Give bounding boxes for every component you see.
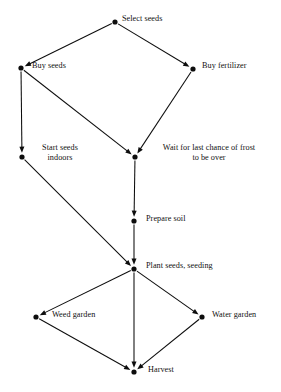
- node-label-wait-for-frost: Wait for last chance of frostto be over: [144, 143, 274, 162]
- edges-layer: [19, 24, 199, 370]
- edge-select-seeds__buy-fertilizer: [118, 24, 186, 65]
- node-dot-prepare-soil[interactable]: [131, 218, 136, 223]
- arrowhead-weed-garden__harvest: [124, 365, 131, 370]
- node-dot-select-seeds[interactable]: [112, 19, 117, 24]
- arrowhead-plant-seeds__harvest: [132, 362, 137, 368]
- node-label-line: Prepare soil: [146, 214, 185, 224]
- node-label-select-seeds: Select seeds: [122, 14, 162, 24]
- edge-weed-garden__harvest: [39, 319, 127, 369]
- arrowhead-prepare-soil__plant-seeds: [132, 259, 137, 265]
- node-label-line: Plant seeds, seeding: [146, 261, 213, 271]
- node-dot-buy-fertilizer[interactable]: [190, 66, 195, 71]
- node-label-buy-seeds: Buy seeds: [32, 61, 66, 71]
- node-label-line: to be over: [144, 153, 274, 163]
- node-label-plant-seeds-seeding: Plant seeds, seeding: [146, 261, 213, 271]
- node-label-harvest: Harvest: [148, 365, 174, 375]
- node-label-line: Select seeds: [122, 14, 162, 24]
- node-label-line: Wait for last chance of frost: [144, 143, 274, 153]
- arrowhead-select-seeds__buy-fertilizer: [183, 61, 190, 66]
- node-label-line: indoors: [29, 153, 91, 163]
- edge-buy-seeds__start-seeds-indoors: [21, 72, 22, 150]
- node-label-start-seeds-indoors: Start seedsindoors: [29, 143, 91, 162]
- node-dot-plant-seeds-seeding[interactable]: [131, 266, 136, 271]
- edge-plant-seeds__weed-garden: [43, 271, 131, 314]
- edge-water-garden__harvest: [140, 319, 199, 367]
- node-dot-start-seeds-indoors[interactable]: [19, 154, 24, 159]
- node-label-buy-fertilizer: Buy fertilizer: [202, 61, 247, 71]
- arrowhead-plant-seeds__water-garden: [192, 309, 199, 315]
- node-label-weed-garden: Weed garden: [52, 310, 95, 320]
- node-label-line: Water garden: [212, 310, 256, 320]
- node-dot-buy-seeds[interactable]: [18, 65, 23, 70]
- node-label-line: Buy fertilizer: [202, 61, 247, 71]
- node-label-line: Start seeds: [29, 143, 91, 153]
- edge-start-seeds-indoors__plant-seeds: [25, 160, 129, 264]
- edge-select-seeds__buy-seeds: [28, 24, 112, 65]
- node-dot-harvest[interactable]: [131, 369, 136, 374]
- node-label-line: Buy seeds: [32, 61, 66, 71]
- node-label-line: Weed garden: [52, 310, 95, 320]
- arrowhead-select-seeds__buy-seeds: [25, 61, 32, 66]
- arrowhead-buy-seeds__start-seeds-indoors: [19, 147, 24, 153]
- diagram-canvas: Select seedsBuy seedsBuy fertilizerStart…: [0, 0, 281, 392]
- node-dot-water-garden[interactable]: [199, 314, 204, 319]
- edge-wait-for-frost__prepare-soil: [134, 161, 135, 214]
- edge-plant-seeds__water-garden: [137, 271, 196, 313]
- edge-buy-seeds__wait-for-frost: [24, 70, 129, 152]
- node-dot-wait-for-frost[interactable]: [132, 154, 137, 159]
- node-label-water-garden: Water garden: [212, 310, 256, 320]
- edge-buy-fertilizer__wait-for-frost: [139, 72, 191, 151]
- arrowhead-plant-seeds__weed-garden: [40, 310, 47, 315]
- node-label-prepare-soil: Prepare soil: [146, 214, 185, 224]
- node-dot-weed-garden[interactable]: [33, 314, 38, 319]
- nodes-layer: [18, 19, 204, 374]
- arrowhead-wait-for-frost__prepare-soil: [132, 211, 137, 217]
- arrowhead-buy-fertilizer__wait-for-frost: [137, 147, 143, 154]
- graph-svg: [0, 0, 281, 392]
- node-label-line: Harvest: [148, 365, 174, 375]
